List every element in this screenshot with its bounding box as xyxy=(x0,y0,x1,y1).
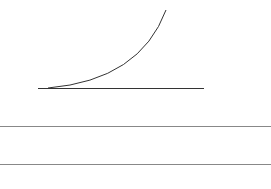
diagram-canvas xyxy=(0,0,271,189)
curve xyxy=(48,10,166,88)
